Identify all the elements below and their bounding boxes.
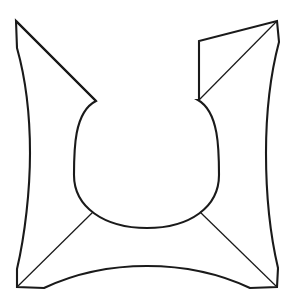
drawing-canvas: Concave star-cushion outline with centra… — [0, 0, 293, 306]
line-drawing-figure: Concave star-cushion outline with centra… — [0, 0, 293, 306]
